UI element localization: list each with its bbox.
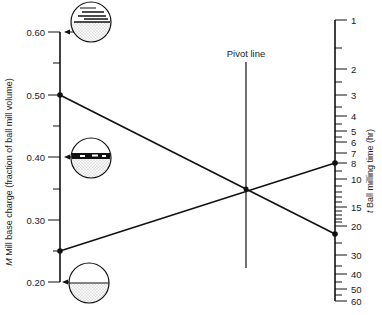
nomograph-diagram: 0.600.500.400.300.20 M Mill base charge …	[0, 0, 382, 315]
left-axis-tick-label: 0.40	[27, 152, 46, 163]
mill-illustration-low	[62, 262, 110, 305]
right-axis-tick-label: 5	[351, 126, 356, 137]
right-axis-tick-label: 1	[351, 15, 356, 26]
right-axis-tick-label: 6	[351, 137, 356, 148]
right-axis-tick-label: 15	[351, 202, 362, 213]
pivot-line-label: Pivot line	[227, 48, 266, 59]
right-axis-tick-label: 10	[351, 174, 362, 185]
left-axis-tick-label: 0.30	[27, 215, 46, 226]
pivot-intersection	[244, 187, 249, 192]
point-left-025	[57, 248, 63, 254]
right-axis-tick-label: 2	[351, 64, 356, 75]
left-axis-label: M Mill base charge (fraction of ball mil…	[4, 78, 14, 266]
mill-illustration-high	[64, 0, 112, 44]
left-axis-tick-label: 0.60	[27, 27, 46, 38]
right-axis-tick-label: 8	[351, 158, 356, 169]
right-axis-tick-label: 40	[351, 269, 362, 280]
right-axis-tick-label: 30	[351, 250, 362, 261]
right-axis-tick-label: 3	[351, 90, 356, 101]
right-axis-tick-label: 60	[351, 296, 362, 307]
left-axis-tick-label: 0.20	[27, 277, 46, 288]
right-axis-tick-label: 20	[351, 221, 362, 232]
left-axis-tick-label: 0.50	[27, 90, 46, 101]
point-left-050	[57, 92, 63, 98]
example-line-2	[60, 163, 335, 251]
left-axis: 0.600.500.400.300.20	[27, 27, 61, 288]
mill-illustration-mid	[64, 138, 112, 180]
right-axis: 1234567810152030405060	[335, 15, 362, 307]
right-axis-tick-label: 50	[351, 284, 362, 295]
right-axis-tick-label: 4	[351, 111, 356, 122]
right-axis-label: t Ball milling time (hr)	[365, 129, 375, 213]
